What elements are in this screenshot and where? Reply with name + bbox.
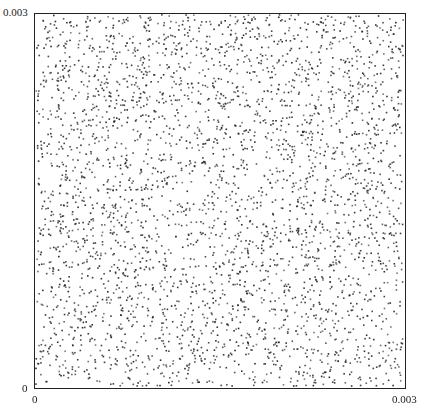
y-axis-max-label: 0.003 <box>3 7 28 18</box>
plot-area <box>34 13 406 389</box>
scatter-points <box>35 14 404 387</box>
x-axis-max-label: 0.003 <box>392 394 417 405</box>
y-axis-min-label: 0 <box>22 383 28 394</box>
x-axis-min-label: 0 <box>32 394 38 405</box>
